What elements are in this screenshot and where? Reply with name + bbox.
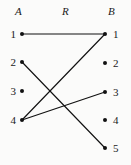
node-label: 3: [113, 87, 119, 98]
relation-diagram: A R B 1 2 3 4 1 2 3 4 5: [0, 0, 131, 165]
node-label: 5: [113, 143, 119, 154]
edge-layer: [0, 0, 131, 165]
node-dot-icon: [20, 32, 24, 36]
node-dot-icon: [103, 32, 107, 36]
node-dot-icon: [20, 60, 24, 64]
node-dot-icon: [103, 61, 107, 65]
node-dot-icon: [103, 90, 107, 94]
node-label: 4: [11, 115, 17, 126]
node-label: 4: [113, 115, 119, 126]
node-label: 1: [11, 29, 17, 40]
node-dot-icon: [103, 146, 107, 150]
edge-a4-b1: [22, 34, 105, 120]
node-dot-icon: [20, 89, 24, 93]
edge-a4-b3: [22, 92, 105, 120]
node-label: 2: [11, 57, 17, 68]
node-label: 1: [113, 29, 119, 40]
node-label: 2: [113, 58, 119, 69]
edge-a2-b5: [22, 62, 105, 148]
node-label: 3: [11, 86, 17, 97]
node-dot-icon: [103, 118, 107, 122]
node-dot-icon: [20, 118, 24, 122]
